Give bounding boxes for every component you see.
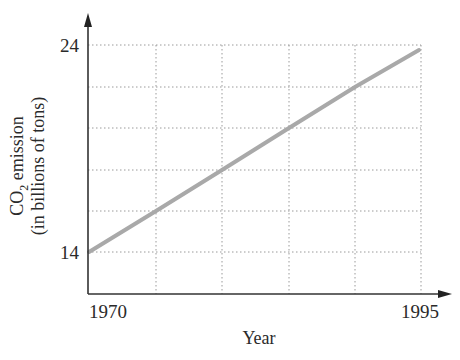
y-axis-title-rest: emission <box>7 116 27 185</box>
y-axis-title-co: CO <box>7 191 27 216</box>
co2-emission-chart: 24 14 1970 1995 Year CO2 emission (in bi… <box>0 0 460 360</box>
x-tick-1970: 1970 <box>89 301 127 322</box>
y-axis-title: CO2 emission (in billions of tons) <box>7 97 49 236</box>
x-axis-title: Year <box>242 328 275 348</box>
grid <box>88 45 421 294</box>
x-tick-1995: 1995 <box>401 301 439 322</box>
y-tick-24: 24 <box>60 35 80 56</box>
y-tick-14: 14 <box>60 242 80 263</box>
co2-emission-line <box>89 50 419 252</box>
x-axis-arrow-icon <box>438 290 452 298</box>
y-axis-title-line2: (in billions of tons) <box>28 97 49 236</box>
y-axis-arrow-icon <box>84 13 92 27</box>
axes <box>88 22 442 294</box>
